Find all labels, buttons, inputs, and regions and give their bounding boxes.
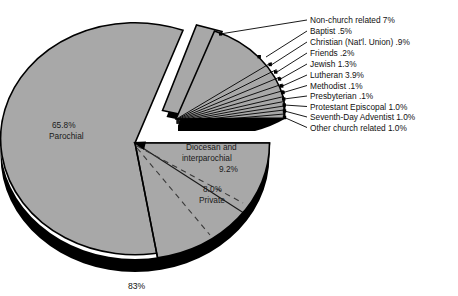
diocesan-percent-label: 9.2% [219, 164, 239, 174]
diocesan-label-line1: Diocesan and [186, 142, 237, 152]
legend-row-9: Protestant Episcopal 1.0% [310, 102, 408, 112]
parochial-name-label: Parochial [49, 131, 84, 141]
leader-line-11 [285, 118, 308, 128]
parochial-percent-label: 65.8% [52, 120, 76, 130]
leader-line-7 [284, 86, 308, 93]
legend-row-5: Jewish 1.3% [310, 59, 357, 69]
leader-line-8 [284, 96, 307, 99]
pie-chart-figure: 65.8% Parochial Diocesan and interparoch… [0, 0, 458, 296]
legend-row-7: Methodist .1% [310, 81, 363, 91]
private-name-label: Private [199, 195, 225, 205]
leader-line-3 [272, 42, 307, 65]
diocesan-label-line2: interparochial [182, 153, 232, 163]
leader-line-1 [220, 20, 307, 34]
legend-row-6: Lutheran 3.9% [310, 70, 365, 80]
legend-row-3: Christian (Nat'l. Union) .9% [310, 37, 410, 47]
leader-line-10 [285, 111, 308, 117]
leader-line-4 [277, 53, 307, 72]
legend-row-4: Friends .2% [310, 48, 355, 58]
legend-row-8: Presbyterian .1% [310, 91, 374, 101]
legend-row-11: Other church related 1.0% [310, 123, 407, 133]
leader-line-6 [283, 75, 308, 86]
chart-caption: 83% [128, 281, 146, 291]
legend-row-10: Seventh-Day Adventist 1.0% [310, 112, 416, 122]
legend-list: Non-church related 7% Baptist .5% Christ… [310, 15, 416, 133]
leader-line-2 [266, 31, 307, 57]
leader-line-9 [285, 105, 308, 107]
private-percent-label: 8.0% [203, 184, 223, 194]
legend-row-1: Non-church related 7% [310, 15, 395, 25]
pie-chart-svg: 65.8% Parochial Diocesan and interparoch… [0, 0, 458, 296]
legend-row-2: Baptist .5% [310, 26, 353, 36]
